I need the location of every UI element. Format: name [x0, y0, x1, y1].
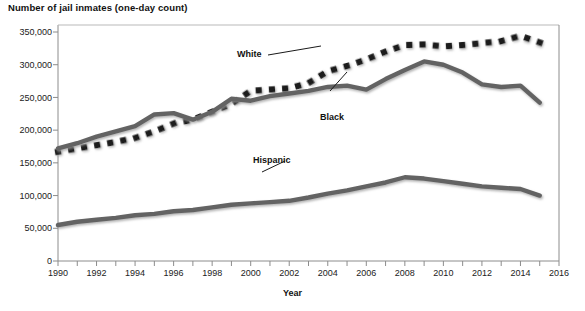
x-tick-label-2000: 2000: [231, 268, 271, 278]
y-tick-label-350000: 350,000: [2, 27, 52, 37]
y-tick-label-200000: 200,000: [2, 125, 52, 135]
series-label-black: Black: [320, 112, 344, 122]
x-tick-label-1994: 1994: [115, 268, 155, 278]
plot-frame: [58, 25, 559, 261]
series-label-white: White: [237, 49, 262, 59]
y-tick-label-150000: 150,000: [2, 158, 52, 168]
series-black: [58, 61, 540, 148]
x-axis-ticks: [58, 261, 559, 266]
annotation-leader-lines: [262, 46, 347, 172]
x-tick-label-2016: 2016: [539, 268, 579, 278]
y-tick-label-100000: 100,000: [2, 191, 52, 201]
x-axis-title: Year: [0, 288, 585, 298]
x-tick-label-2012: 2012: [462, 268, 502, 278]
x-tick-label-2006: 2006: [346, 268, 386, 278]
x-tick-label-1998: 1998: [192, 268, 232, 278]
series-hispanic: [58, 177, 540, 225]
series-label-hispanic: Hispanic: [253, 155, 291, 165]
x-tick-label-2014: 2014: [500, 268, 540, 278]
x-tick-label-2002: 2002: [269, 268, 309, 278]
chart-plot-area: [0, 0, 585, 311]
data-series-layer: [54, 34, 543, 225]
chart-figure: Number of jail inmates (one-day count): [0, 0, 585, 311]
y-tick-label-250000: 250,000: [2, 93, 52, 103]
y-tick-label-300000: 300,000: [2, 60, 52, 70]
y-tick-label-0: 0: [2, 256, 52, 266]
x-tick-label-1992: 1992: [77, 268, 117, 278]
x-tick-label-2008: 2008: [385, 268, 425, 278]
x-tick-label-2010: 2010: [423, 268, 463, 278]
y-tick-label-50000: 50,000: [2, 223, 52, 233]
x-tick-label-1996: 1996: [154, 268, 194, 278]
x-tick-label-1990: 1990: [38, 268, 78, 278]
x-tick-label-2004: 2004: [308, 268, 348, 278]
series-white: [54, 34, 543, 156]
